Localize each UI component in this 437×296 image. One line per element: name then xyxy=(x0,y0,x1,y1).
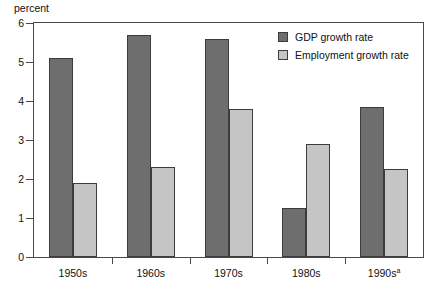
x-axis-tick xyxy=(267,257,268,264)
bar-gdp-1980s xyxy=(282,208,306,257)
y-axis-tick-label: 4 xyxy=(10,96,24,107)
legend-swatch-icon xyxy=(278,50,288,60)
x-axis-tick xyxy=(345,257,346,264)
bar-employment-1960s xyxy=(151,167,175,257)
legend-item-label: Employment growth rate xyxy=(295,50,409,61)
x-axis-category-label-text: 1970s xyxy=(214,267,243,279)
x-axis-category-label-text: 1950s xyxy=(59,267,88,279)
bar-employment-1970s xyxy=(229,109,253,257)
y-axis-tick-label: 6 xyxy=(10,18,24,29)
x-axis-category-label: 1970s xyxy=(214,268,243,279)
x-axis-category-label: 1960s xyxy=(136,268,165,279)
y-axis-tick-label: 1 xyxy=(10,213,24,224)
y-axis-unit-label: percent xyxy=(14,2,49,14)
x-axis-category-label-text: 1960s xyxy=(136,267,165,279)
bar-gdp-1960s xyxy=(127,35,151,257)
legend-item: Employment growth rate xyxy=(278,47,409,63)
y-axis-tick-label: 2 xyxy=(10,174,24,185)
x-axis-category-label-text: 1980s xyxy=(292,267,321,279)
x-axis-tick xyxy=(112,257,113,264)
y-axis-tick-label: 0 xyxy=(10,252,24,263)
x-axis-category-label: 1990sa xyxy=(368,268,401,279)
y-axis-tick-label: 3 xyxy=(10,135,24,146)
bar-gdp-1970s xyxy=(205,39,229,257)
bar-gdp-1950s xyxy=(49,58,73,257)
x-axis-category-label: 1980s xyxy=(292,268,321,279)
bar-employment-1950s xyxy=(73,183,97,257)
x-axis-category-label-text: 1990s xyxy=(368,267,397,279)
bar-chart-figure: percent 0123456 GDP growth rateEmploymen… xyxy=(0,0,437,296)
x-axis-category-label-footnote: a xyxy=(396,267,400,274)
y-axis-tick-label: 5 xyxy=(10,57,24,68)
plot-frame: GDP growth rateEmployment growth rate xyxy=(33,22,424,258)
bar-employment-1980s xyxy=(306,144,330,257)
legend-item-label: GDP growth rate xyxy=(295,32,373,43)
chart-legend: GDP growth rateEmployment growth rate xyxy=(278,29,409,65)
x-axis-category-label: 1950s xyxy=(59,268,88,279)
bar-employment-1990s xyxy=(384,169,408,257)
x-axis-tick xyxy=(190,257,191,264)
bar-gdp-1990s xyxy=(360,107,384,257)
legend-swatch-icon xyxy=(278,32,288,42)
legend-item: GDP growth rate xyxy=(278,29,409,45)
